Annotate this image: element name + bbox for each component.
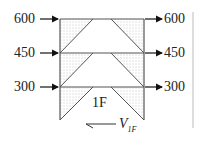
left-load-arrows: [40, 19, 58, 87]
story-2-bracing: [60, 53, 144, 87]
shear-subscript: 1F: [128, 125, 137, 134]
right-load-450: 450: [164, 46, 185, 60]
left-load-300: 300: [14, 80, 35, 94]
shear-arrow: [86, 124, 116, 128]
right-load-300: 300: [164, 80, 185, 94]
right-load-600: 600: [164, 12, 185, 26]
left-load-450: 450: [14, 46, 35, 60]
shear-symbol: V: [119, 116, 128, 131]
story-3-bracing: [60, 19, 144, 53]
right-load-arrows: [145, 19, 162, 87]
shear-label: V1F: [119, 117, 136, 137]
floor-label: 1F: [92, 96, 107, 110]
left-load-600: 600: [14, 12, 35, 26]
